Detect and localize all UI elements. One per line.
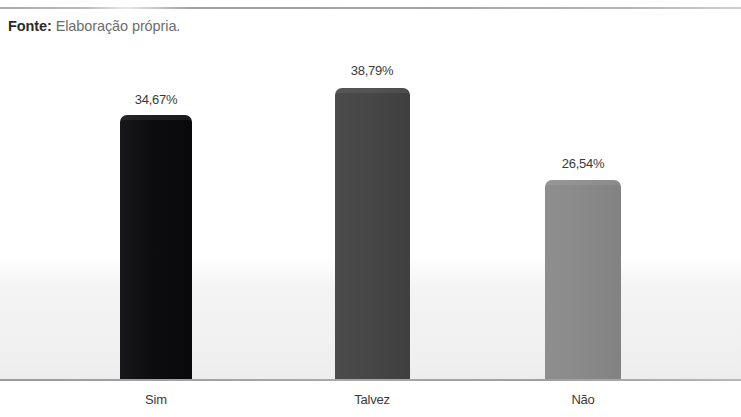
- bar-value-label-sim: 34,67%: [116, 92, 196, 107]
- chart-page: Fonte: Elaboração própria. 34,67% 38,79%…: [0, 0, 741, 417]
- axis-baseline: [0, 379, 741, 381]
- bar-sim: [120, 115, 192, 379]
- bar-talvez: [335, 88, 410, 379]
- bar-value-label-nao: 26,54%: [543, 156, 623, 171]
- figure-source-caption: Fonte: Elaboração própria.: [8, 18, 180, 34]
- category-label-nao: Não: [543, 392, 623, 407]
- top-divider: [0, 7, 741, 9]
- bar-nao: [545, 180, 621, 379]
- caption-lead-label: Fonte:: [8, 18, 52, 34]
- category-label-talvez: Talvez: [332, 392, 412, 407]
- plot-area: [0, 45, 741, 381]
- category-label-sim: Sim: [116, 392, 196, 407]
- caption-text: Elaboração própria.: [52, 18, 181, 34]
- bar-value-label-talvez: 38,79%: [332, 63, 412, 78]
